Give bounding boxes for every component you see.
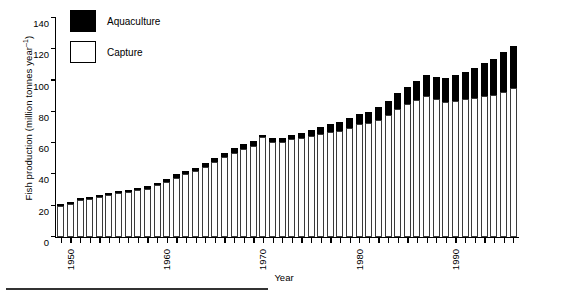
bar-segment-capture xyxy=(240,149,247,237)
x-axis-tick xyxy=(359,237,360,243)
bar-segment-aquaculture xyxy=(375,107,382,120)
bar xyxy=(336,122,343,237)
bar-segment-aquaculture xyxy=(269,138,276,141)
bar xyxy=(231,148,238,237)
bar-segment-capture xyxy=(452,101,459,237)
bar-segment-aquaculture xyxy=(510,46,517,88)
bar xyxy=(346,118,353,237)
bar xyxy=(279,138,286,237)
x-axis-tick xyxy=(253,237,254,243)
bar xyxy=(115,191,122,237)
bar xyxy=(308,130,315,237)
x-axis-tick xyxy=(234,237,235,243)
y-axis-title: Fish production (million tonnes year–1) xyxy=(22,13,34,223)
bar-segment-aquaculture xyxy=(134,188,141,190)
bar xyxy=(442,78,449,237)
legend-label-capture: Capture xyxy=(107,47,143,58)
bar-segment-aquaculture xyxy=(67,202,74,204)
bar xyxy=(481,63,488,237)
x-axis-tick xyxy=(176,237,177,243)
x-axis-tick xyxy=(340,237,341,243)
x-axis-tick-label: 1990 xyxy=(450,249,461,270)
bar-segment-capture xyxy=(462,99,469,237)
y-axis-tick xyxy=(51,79,56,80)
bar-segment-capture xyxy=(211,162,218,237)
x-axis-tick xyxy=(427,237,428,243)
chart-legend: Aquaculture Capture xyxy=(70,10,160,72)
bar xyxy=(462,72,469,237)
x-axis-tick xyxy=(417,237,418,243)
bar xyxy=(202,163,209,237)
bar-segment-capture xyxy=(96,197,103,237)
bar-segment-capture xyxy=(356,124,363,237)
bar xyxy=(96,196,103,237)
x-axis-tick xyxy=(128,237,129,243)
bar-segment-aquaculture xyxy=(442,78,449,102)
bar xyxy=(500,52,507,237)
x-axis-tick xyxy=(215,237,216,243)
bar-segment-aquaculture xyxy=(221,153,228,158)
bar-segment-capture xyxy=(279,142,286,237)
bar xyxy=(510,46,517,237)
bar-segment-capture xyxy=(259,137,266,237)
footer-rule xyxy=(6,288,268,290)
bar xyxy=(298,133,305,237)
bar xyxy=(356,114,363,237)
x-axis-tick xyxy=(119,237,120,243)
bar xyxy=(182,171,189,237)
bar-segment-aquaculture xyxy=(298,133,305,138)
bar xyxy=(77,199,84,237)
bar-segment-capture xyxy=(134,190,141,237)
x-axis-tick-label: 1970 xyxy=(257,249,268,270)
bar xyxy=(173,174,180,237)
bar-segment-capture xyxy=(202,167,209,237)
bar-segment-aquaculture xyxy=(365,112,372,123)
bar-segment-aquaculture xyxy=(202,163,209,167)
y-axis-tick xyxy=(51,173,56,174)
bar-segment-aquaculture xyxy=(125,190,132,192)
x-axis-tick xyxy=(388,237,389,243)
legend-swatch-aquaculture xyxy=(70,10,96,32)
legend-swatch-capture xyxy=(70,41,96,63)
bar-segment-capture xyxy=(471,98,478,237)
bar-segment-aquaculture xyxy=(490,59,497,95)
bar-segment-aquaculture xyxy=(462,72,469,99)
bar-segment-aquaculture xyxy=(163,179,170,182)
bar-segment-aquaculture xyxy=(433,77,440,100)
bar-segment-capture xyxy=(404,104,411,237)
x-axis-tick xyxy=(436,237,437,243)
bar-segment-aquaculture xyxy=(500,52,507,91)
bar-segment-capture xyxy=(346,128,353,238)
bar xyxy=(327,124,334,237)
y-axis-tick xyxy=(51,111,56,112)
bar xyxy=(317,127,324,237)
bar-segment-aquaculture xyxy=(481,63,488,96)
x-axis-tick-label: 1980 xyxy=(354,249,365,270)
x-axis-tick xyxy=(205,237,206,243)
bar-segment-aquaculture xyxy=(394,93,401,109)
bar-segment-capture xyxy=(105,195,112,237)
bar-segment-aquaculture xyxy=(240,144,247,149)
bar-segment-aquaculture xyxy=(105,193,112,195)
bar-segment-capture xyxy=(115,193,122,237)
x-axis-tick-label: 1950 xyxy=(65,249,76,270)
bar-segment-capture xyxy=(67,204,74,237)
y-axis-title-exponent: –1 xyxy=(22,39,29,47)
bar-segment-capture xyxy=(173,178,180,237)
bar-segment-aquaculture xyxy=(471,68,478,98)
bar-segment-aquaculture xyxy=(115,191,122,193)
bar-segment-capture xyxy=(308,136,315,237)
bar-segment-aquaculture xyxy=(336,122,343,131)
bar-segment-aquaculture xyxy=(346,118,353,127)
x-axis-tick xyxy=(167,237,168,243)
bar-segment-capture xyxy=(385,115,392,237)
bar xyxy=(154,183,161,237)
bar-segment-capture xyxy=(298,138,305,237)
bar-segment-aquaculture xyxy=(231,148,238,153)
y-axis-title-text: Fish production (million tonnes year xyxy=(23,47,34,201)
bar xyxy=(394,93,401,237)
bar xyxy=(67,203,74,237)
bar xyxy=(404,87,411,237)
x-axis-tick xyxy=(99,237,100,243)
bar-segment-capture xyxy=(413,100,420,237)
